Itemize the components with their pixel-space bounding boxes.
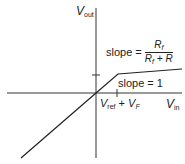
x-axis-label: Vin [166,98,179,111]
y-axis-label: Vout [76,5,94,18]
slope-lower-annotation: slope = 1 [118,78,163,89]
slope-upper-annotation: slope = Rf Rf + R [106,40,173,65]
x-tick-label: Vref + VF [100,98,140,110]
slope-fraction: Rf Rf + R [145,40,173,65]
